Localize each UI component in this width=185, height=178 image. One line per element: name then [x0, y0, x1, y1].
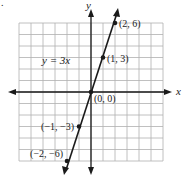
line-bottom-arrow-icon	[62, 166, 69, 175]
y-axis-down-arrow-icon	[88, 167, 94, 175]
point-label: (−1, −3)	[41, 121, 74, 133]
y-axis-label: y	[85, 0, 91, 11]
x-axis-label: x	[175, 85, 181, 97]
coordinate-graph: . x y (2, 6)(1, 3)(0, 0)(−1, −3)(−2, −6)…	[0, 0, 185, 178]
problem-marker: .	[1, 0, 4, 8]
point-label: (1, 3)	[107, 53, 129, 65]
data-point	[89, 90, 94, 95]
x-axis-left-arrow-icon	[8, 89, 16, 95]
data-point	[65, 159, 70, 164]
points: (2, 6)(1, 3)(0, 0)(−1, −3)(−2, −6)	[30, 18, 141, 163]
data-point	[77, 124, 82, 129]
point-label: (0, 0)	[94, 93, 116, 105]
point-label: (−2, −6)	[30, 148, 63, 160]
x-axis-right-arrow-icon	[164, 89, 172, 95]
point-label: (2, 6)	[119, 18, 141, 30]
data-point	[101, 55, 106, 60]
data-point	[113, 21, 118, 26]
line-top-arrow-icon	[113, 8, 120, 17]
equation-label: y = 3x	[41, 54, 70, 66]
